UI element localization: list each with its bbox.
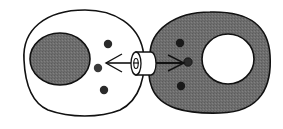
- right-molecule-2: [184, 58, 192, 66]
- right-cell-nucleus: [202, 34, 254, 84]
- left-molecule-1: [104, 40, 112, 48]
- cell-junction-diagram: [0, 0, 283, 129]
- left-molecule-2: [94, 64, 102, 72]
- left-cell-nucleus: [30, 33, 90, 85]
- left-molecule-3: [100, 86, 108, 94]
- channel: [131, 52, 156, 75]
- right-molecule-3: [177, 82, 185, 90]
- right-molecule-1: [176, 39, 184, 47]
